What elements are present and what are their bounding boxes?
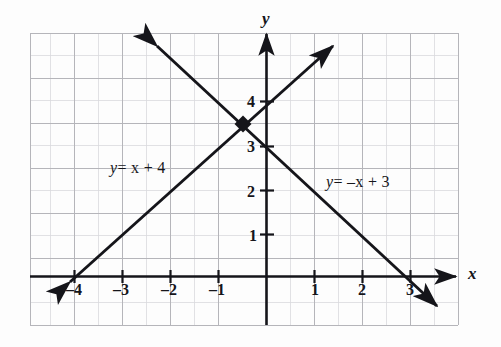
- x-axis: [30, 270, 456, 283]
- y-axis-label: y: [262, 10, 270, 27]
- grid-major: [30, 33, 459, 326]
- x-tick-label-neg3: –3: [113, 282, 129, 298]
- equation-label-line2: y= –x + 3: [326, 174, 390, 190]
- x-tick-label-neg4: –4: [66, 282, 82, 298]
- x-tick-label-neg1: –1: [209, 282, 225, 298]
- x-tick-label-1: 1: [311, 282, 319, 298]
- x-tick-label-2: 2: [358, 282, 366, 298]
- line-y-equals-neg-x-plus-3: [157, 46, 437, 306]
- y-tick-label-1: 1: [249, 228, 257, 244]
- y-tick-label-4: 4: [247, 94, 255, 110]
- equation-label-line1-body: = x + 4: [117, 159, 165, 176]
- x-tick-label-neg2: –2: [161, 282, 177, 298]
- y-tick-label-2: 2: [247, 184, 255, 200]
- x-tick-label-3: 3: [406, 282, 414, 298]
- graph-figure: y x –4 –3 –2 –1 1 2 3 1 2 3 4 y= x + 4 y…: [0, 0, 501, 347]
- grid-minor: [30, 33, 458, 325]
- x-axis-label: x: [468, 265, 477, 282]
- y-tick-label-3: 3: [247, 139, 255, 155]
- equation-label-line2-body: = –x + 3: [333, 173, 389, 190]
- equation-label-line1: y= x + 4: [110, 160, 166, 176]
- y-axis: [260, 34, 274, 325]
